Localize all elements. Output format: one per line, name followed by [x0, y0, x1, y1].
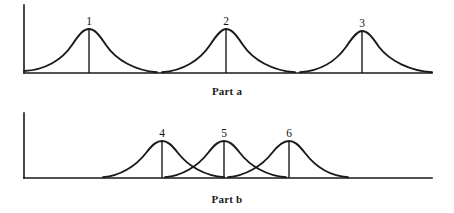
part-b-curve-label-6: 6 [286, 127, 292, 139]
part-a-curve-2 [162, 29, 295, 72]
part-a-curve-label-3: 3 [359, 17, 365, 29]
part-a-curve-label-1: 1 [86, 15, 92, 27]
part-a-curve-1 [24, 29, 157, 72]
part-a-curve-3 [300, 31, 432, 72]
part-b-caption: Part b [0, 193, 454, 205]
part-a-curve-label-2: 2 [223, 15, 229, 27]
part-b-curve-label-4: 4 [159, 127, 165, 139]
panel-part-a: 1 2 3 Part a [0, 0, 454, 107]
part-b-curve-label-5: 5 [221, 127, 227, 139]
part-a-caption: Part a [0, 85, 454, 97]
part-b-curve-4 [103, 141, 224, 177]
panel-part-b: 4 5 6 Part b [0, 106, 454, 213]
distribution-figure: 1 2 3 Part a 4 5 6 Part b [0, 0, 454, 213]
